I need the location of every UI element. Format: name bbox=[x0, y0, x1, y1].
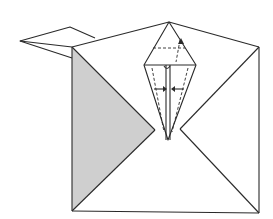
origami-diagram bbox=[0, 0, 273, 219]
left-flap bbox=[20, 27, 95, 58]
origami-diagram-svg bbox=[0, 0, 273, 219]
shaded-triangle bbox=[72, 47, 155, 211]
